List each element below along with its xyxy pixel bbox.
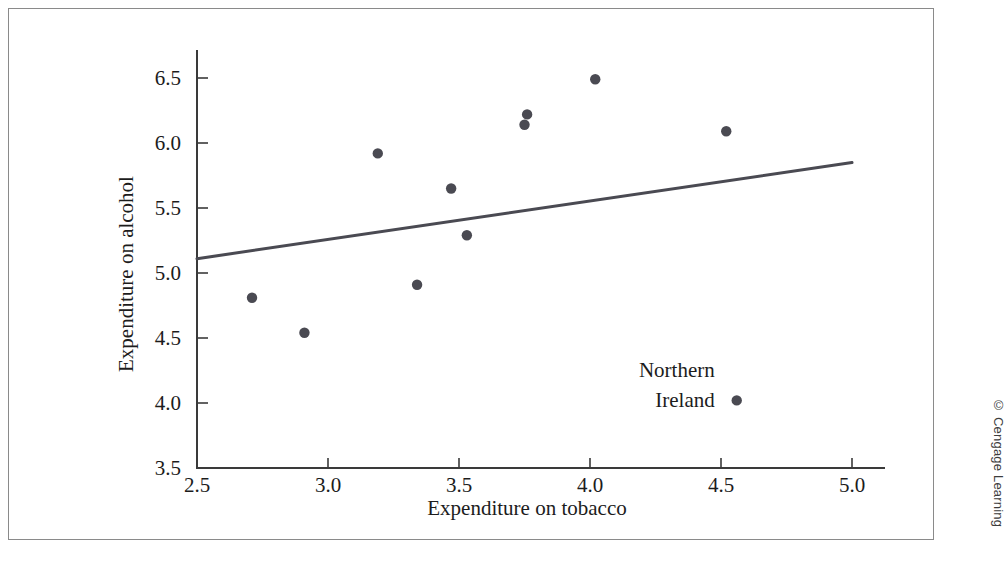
y-axis-title: Expenditure on alcohol bbox=[114, 176, 138, 372]
fit-line bbox=[197, 163, 852, 259]
x-tick-label: 5.0 bbox=[839, 473, 865, 497]
data-point bbox=[522, 109, 532, 119]
y-tick-label: 4.5 bbox=[155, 326, 181, 350]
data-point bbox=[446, 183, 456, 193]
copyright-credit: © Cengage Learning bbox=[988, 398, 1006, 564]
y-axis-ticks: 3.54.04.55.05.56.06.5 bbox=[155, 66, 208, 480]
y-tick-label: 6.5 bbox=[155, 66, 181, 90]
x-tick-label: 4.5 bbox=[708, 473, 734, 497]
data-point bbox=[721, 126, 731, 136]
figure-container: 2.53.03.54.04.55.0 3.54.04.55.05.56.06.5… bbox=[0, 0, 1008, 568]
x-axis-ticks: 2.53.03.54.04.55.0 bbox=[184, 458, 865, 497]
regression-line bbox=[197, 163, 852, 259]
y-tick-label: 5.5 bbox=[155, 196, 181, 220]
data-point bbox=[299, 328, 309, 338]
data-point bbox=[732, 395, 742, 405]
x-tick-label: 3.0 bbox=[315, 473, 341, 497]
x-axis-title: Expenditure on tobacco bbox=[427, 496, 626, 520]
y-tick-label: 4.0 bbox=[155, 391, 181, 415]
y-tick-label: 6.0 bbox=[155, 131, 181, 155]
x-tick-label: 4.0 bbox=[577, 473, 603, 497]
data-point bbox=[373, 148, 383, 158]
x-tick-label: 2.5 bbox=[184, 473, 210, 497]
data-point bbox=[462, 230, 472, 240]
x-tick-label: 3.5 bbox=[446, 473, 472, 497]
annotation-label-line2: Ireland bbox=[655, 388, 715, 412]
annotation-label-line1: Northern bbox=[639, 358, 715, 382]
scatter-plot: 2.53.03.54.04.55.0 3.54.04.55.05.56.06.5… bbox=[0, 0, 1008, 568]
axis-lines bbox=[197, 50, 885, 468]
data-point bbox=[247, 293, 257, 303]
point-annotations: NorthernIreland bbox=[639, 358, 715, 412]
y-tick-label: 3.5 bbox=[155, 456, 181, 480]
data-point bbox=[590, 74, 600, 84]
y-tick-label: 5.0 bbox=[155, 261, 181, 285]
data-point bbox=[519, 120, 529, 130]
data-point bbox=[412, 280, 422, 290]
axes-group bbox=[197, 50, 885, 468]
